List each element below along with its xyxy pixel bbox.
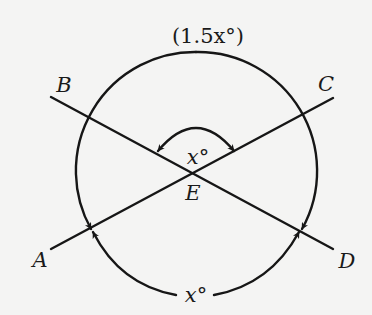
label-bottom-arc: x° xyxy=(185,283,207,307)
label-point-b: B xyxy=(55,73,71,97)
top-arc-right xyxy=(196,52,317,229)
label-point-a: A xyxy=(30,248,47,272)
bottom-arc-right xyxy=(214,232,299,295)
bottom-arc-left xyxy=(93,232,176,295)
geometry-diagram: (1.5x°) B C x° E A D x° xyxy=(0,0,372,315)
label-point-c: C xyxy=(318,72,334,96)
label-point-e: E xyxy=(184,181,200,205)
label-point-d: D xyxy=(338,249,356,273)
label-inner-angle: x° xyxy=(187,145,209,169)
label-top-arc: (1.5x°) xyxy=(172,24,244,48)
